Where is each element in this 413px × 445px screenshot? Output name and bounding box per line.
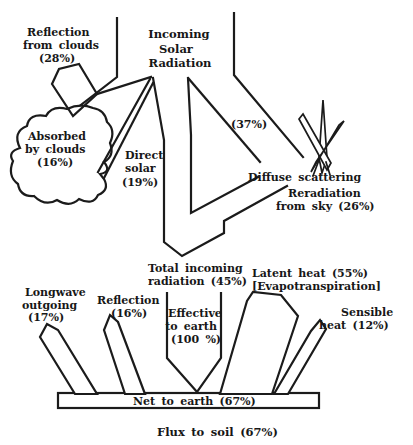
sensible-heat-line-1: Sensible <box>341 306 393 319</box>
absorbed-line-2: by clouds <box>25 143 86 156</box>
channel-funnel-inner-line <box>188 78 258 213</box>
absorbed-line-3: (16%) <box>37 156 73 169</box>
direct-solar-line-2: solar <box>125 162 156 175</box>
label-longwave-outgoing: Longwave outgoing (17%) <box>22 286 86 324</box>
label-flux-to-soil: Flux to soil (67%) <box>157 425 278 439</box>
label-scattered-fraction: (37%) <box>231 118 267 131</box>
surface-reflection-line-1: Reflection <box>97 294 159 307</box>
label-incoming-solar: Incoming Solar Radiation <box>148 27 212 70</box>
label-net-to-earth: Net to earth (67%) <box>133 395 256 408</box>
diffuse-scattering-star <box>299 100 344 176</box>
effective-line-3: (100 %) <box>171 333 221 346</box>
surface-reflection-arrow <box>104 315 145 394</box>
sensible-heat-line-2: heat (12%) <box>319 319 389 332</box>
effective-line-1: Effective <box>168 307 222 320</box>
label-sensible-heat: Sensible heat (12%) <box>319 306 393 332</box>
reflection-clouds-line-2: from clouds <box>23 39 99 52</box>
label-effective-to-earth: Effective to earth (100 %) <box>165 307 222 346</box>
latent-heat-line-1: Latent heat (55%) <box>252 267 368 280</box>
effective-line-2: to earth <box>165 320 217 333</box>
label-reradiation-from-sky: Reradiation from sky (26%) <box>276 187 375 213</box>
label-diffuse-scattering: Diffuse scattering <box>248 171 361 184</box>
label-reflection-from-clouds: Reflection from clouds (28%) <box>23 26 99 65</box>
channel-funnel-outer-line <box>153 78 287 256</box>
absorbed-line-1: Absorbed <box>27 130 86 143</box>
label-total-incoming: Total incoming radiation (45%) <box>148 262 247 288</box>
longwave-line-1: Longwave <box>25 286 86 299</box>
reflection-clouds-line-1: Reflection <box>27 26 89 39</box>
incoming-line-2: Solar <box>159 42 194 56</box>
direct-solar-line-3: (19%) <box>122 176 158 189</box>
reradiation-line-1: Reradiation <box>288 187 361 200</box>
longwave-line-3: (17%) <box>28 311 64 324</box>
reradiation-line-2: from sky (26%) <box>276 200 375 213</box>
incoming-line-1: Incoming <box>148 27 209 41</box>
incoming-right-boundary-line <box>234 13 303 157</box>
solar-radiation-diagram: Incoming Solar Radiation Reflection from… <box>0 0 413 445</box>
label-latent-heat: Latent heat (55%) [Evapotranspiration] <box>252 267 381 293</box>
reflection-clouds-line-3: (28%) <box>39 52 75 65</box>
label-surface-reflection: Reflection (16%) <box>97 294 159 320</box>
total-incoming-line-1: Total incoming <box>148 262 243 275</box>
direct-solar-line-1: Direct <box>125 149 164 162</box>
latent-heat-line-2: [Evapotranspiration] <box>252 280 381 293</box>
surface-reflection-line-2: (16%) <box>111 307 147 320</box>
longwave-outgoing-arrow <box>40 324 97 394</box>
total-incoming-line-2: radiation (45%) <box>148 275 247 288</box>
label-direct-solar: Direct solar (19%) <box>122 149 164 189</box>
incoming-line-3: Radiation <box>149 56 212 70</box>
